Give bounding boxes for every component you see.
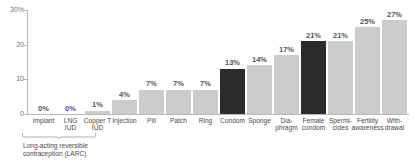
bar[interactable] [382, 20, 407, 114]
bar-slot[interactable]: 27% [382, 10, 407, 114]
bar-slot[interactable]: 7% [166, 10, 191, 114]
bar-slot[interactable]: 1% [85, 10, 110, 114]
y-tick-mark [24, 114, 27, 115]
bar-slot[interactable]: 25% [355, 10, 380, 114]
bar[interactable] [85, 111, 110, 114]
bar-slot[interactable]: 21% [301, 10, 326, 114]
bar-chart: 30%20100 0%0%1%4%7%7%7%13%14%17%21%21%25… [0, 0, 414, 167]
category-label: With- drawal [376, 117, 413, 132]
bar[interactable] [166, 90, 191, 114]
bar-slot[interactable]: 4% [112, 10, 137, 114]
bar[interactable] [139, 90, 164, 114]
bar-slot[interactable]: 7% [193, 10, 218, 114]
larc-caption: Long-acting reversible contraception (LA… [23, 142, 143, 158]
y-tick-20: 20 [0, 41, 24, 49]
larc-bracket-icon [22, 133, 96, 139]
bar[interactable] [220, 69, 245, 114]
y-tick-label: 30% [10, 6, 24, 14]
bar-slot[interactable]: 13% [220, 10, 245, 114]
bar-value-label: 1% [81, 100, 114, 109]
bar-slot[interactable]: 17% [274, 10, 299, 114]
bar-slot[interactable]: 0% [58, 10, 83, 114]
bar-value-label: 4% [108, 90, 141, 99]
bar-value-label: 17% [270, 45, 303, 54]
y-tick-0: 0 [0, 110, 24, 118]
bar[interactable] [301, 41, 326, 114]
bar[interactable] [193, 90, 218, 114]
bar-value-label: 21% [324, 31, 357, 40]
y-tick-label: 10 [16, 75, 24, 83]
bar[interactable] [247, 65, 272, 114]
bar-slot[interactable]: 21% [328, 10, 353, 114]
y-tick-30: 30% [0, 6, 24, 14]
bar[interactable] [328, 41, 353, 114]
bar[interactable] [112, 100, 137, 114]
bar[interactable] [355, 27, 380, 114]
bar-value-label: 7% [189, 79, 222, 88]
y-tick-label: 20 [16, 41, 24, 49]
plot-area: 0%0%1%4%7%7%7%13%14%17%21%21%25%27% [28, 10, 409, 114]
y-tick-mark [24, 45, 27, 46]
bar-slot[interactable]: 0% [31, 10, 56, 114]
bar-value-label: 27% [378, 10, 411, 19]
bar-value-label: 14% [243, 55, 276, 64]
y-tick-mark [24, 10, 27, 11]
bar-slot[interactable]: 14% [247, 10, 272, 114]
x-axis-line [27, 114, 409, 115]
y-tick-mark [24, 79, 27, 80]
bar[interactable] [274, 55, 299, 114]
y-tick-10: 10 [0, 75, 24, 83]
bar-slot[interactable]: 7% [139, 10, 164, 114]
